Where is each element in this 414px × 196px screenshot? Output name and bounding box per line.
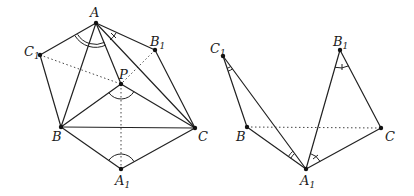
angle-mark-a1-double-inner: [291, 154, 295, 159]
label-c: C: [385, 129, 395, 144]
segment-b1-a1: [306, 50, 340, 169]
point-a: [94, 21, 98, 25]
angle-mark-c1-outer: [228, 69, 232, 71]
label-b: B: [51, 129, 62, 144]
dotted-b-c: [247, 127, 381, 128]
label-a: A: [89, 5, 99, 20]
angle-mark-c1-inner: [227, 67, 231, 69]
segment-b-c: [61, 127, 195, 128]
left-figure: A B1 C1 P B C A1: [24, 5, 208, 190]
label-a1: A1: [299, 173, 315, 190]
segment-a-b: [61, 23, 96, 127]
geometry-figure: A B1 C1 P B C A1: [0, 0, 414, 196]
point-c: [379, 126, 383, 130]
segment-c1-a1: [223, 56, 306, 169]
label-c1: C1: [24, 44, 40, 61]
segment-c-a1: [121, 128, 195, 169]
segment-c-a1: [306, 128, 381, 169]
label-b1: B1: [149, 34, 165, 51]
label-b: B: [235, 129, 246, 144]
segment-b-a1: [61, 127, 121, 169]
right-figure: C1 B1 B C A1: [210, 34, 395, 190]
point-a1: [119, 167, 123, 171]
label-a1: A1: [114, 173, 130, 190]
segment-b1-c: [340, 50, 381, 128]
segment-a-c1: [40, 23, 96, 55]
segment-c1-b: [223, 56, 247, 127]
segment-p-b: [61, 84, 121, 127]
point-c: [193, 126, 197, 130]
label-p: P: [118, 67, 128, 82]
label-c: C: [198, 129, 208, 144]
point-p: [119, 82, 123, 86]
segment-b-a1: [247, 127, 306, 169]
label-c1: C1: [210, 41, 226, 58]
point-a1: [304, 167, 308, 171]
label-b1: B1: [332, 34, 348, 51]
segment-c1-b: [40, 55, 61, 127]
